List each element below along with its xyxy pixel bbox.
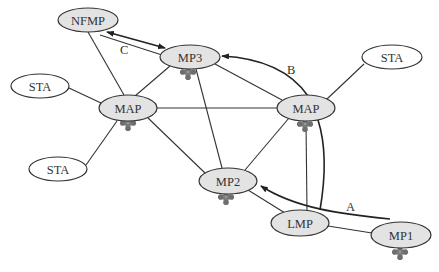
node-lmp: LMP xyxy=(271,210,329,236)
arrow-label-b: B xyxy=(287,63,295,77)
link-mp3-map-right xyxy=(215,64,282,100)
node-mp2: MP2 xyxy=(199,168,257,194)
node-map-left-label: MAP xyxy=(114,102,141,116)
node-map-right-label: MAP xyxy=(292,102,319,116)
link-mp2-lmp xyxy=(248,190,285,213)
link-mp3-map-left xyxy=(135,66,170,96)
node-sta-top-left: STA xyxy=(11,74,69,98)
node-mp2-label: MP2 xyxy=(216,175,240,189)
link-map-right-lmp xyxy=(306,121,307,211)
link-sta-map-left-top xyxy=(69,88,101,103)
arrow-label-c: C xyxy=(120,43,128,57)
node-mp3-label: MP3 xyxy=(178,51,202,65)
node-lmp-label: LMP xyxy=(287,217,313,231)
arrow-b-lower xyxy=(318,120,324,210)
node-sta-top-left-label: STA xyxy=(29,80,52,94)
link-sta-map-left-bottom xyxy=(86,121,117,165)
link-sta-map-right xyxy=(327,64,364,99)
node-sta-bottom-left-label: STA xyxy=(47,163,70,177)
node-nfmp-label: NFMP xyxy=(71,14,105,28)
node-sta-bottom-left: STA xyxy=(29,157,87,181)
node-mp1-label: MP1 xyxy=(389,229,413,243)
arrow-label-a: A xyxy=(346,200,355,214)
network-links xyxy=(69,32,372,233)
node-map-right: MAP xyxy=(277,95,335,121)
node-map-left: MAP xyxy=(99,95,157,121)
node-nfmp: NFMP xyxy=(58,8,118,32)
link-map-left-mp2 xyxy=(148,118,205,173)
link-lmp-mp1 xyxy=(328,226,372,233)
node-mp1: MP1 xyxy=(371,222,431,248)
antennas xyxy=(120,64,408,260)
link-mp3-mp2 xyxy=(196,69,222,168)
link-map-right-mp2 xyxy=(245,118,289,170)
node-sta-right-label: STA xyxy=(381,51,404,65)
mesh-network-diagram: A B C NFMP MP3 STA MAP STA MAP STA MP2 xyxy=(0,0,439,272)
node-mp3: MP3 xyxy=(160,45,220,69)
node-sta-right: STA xyxy=(362,45,422,69)
